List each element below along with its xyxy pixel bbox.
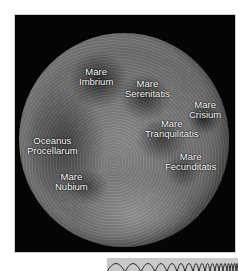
label-line: Serenitatis bbox=[125, 89, 170, 99]
label-mare-serenitatis: Mare Serenitatis bbox=[125, 79, 170, 99]
label-mare-tranquilitatis: Mare Tranquilitatis bbox=[145, 119, 199, 139]
label-line: Fecunditatis bbox=[165, 162, 216, 172]
label-mare-crisium: Mare Crisium bbox=[189, 100, 221, 120]
moon-image-frame: Mare Imbrium Mare Serenitatis Mare Crisi… bbox=[14, 14, 236, 253]
label-mare-nubium: Mare Nubium bbox=[55, 172, 88, 192]
label-line: Procellarum bbox=[27, 146, 78, 156]
label-line: Nubium bbox=[55, 182, 88, 192]
chirp-wave-icon bbox=[107, 259, 238, 271]
label-line: Tranquilitatis bbox=[145, 129, 199, 139]
label-oceanus-procellarum: Oceanus Procellarum bbox=[27, 136, 78, 156]
label-line: Imbrium bbox=[79, 77, 113, 87]
label-mare-imbrium: Mare Imbrium bbox=[79, 67, 113, 87]
wave-strip bbox=[107, 258, 238, 271]
label-mare-fecunditatis: Mare Fecunditatis bbox=[165, 152, 216, 172]
